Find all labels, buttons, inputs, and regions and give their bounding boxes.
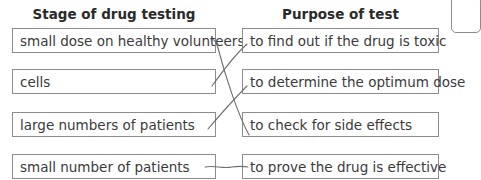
- stage-box-cells[interactable]: cells: [12, 69, 216, 94]
- purpose-label: to determine the optimum dose: [250, 74, 465, 90]
- column-heading-purpose: Purpose of test: [242, 6, 439, 22]
- stage-box-small-dose-healthy-volunteers[interactable]: small dose on healthy volunteers: [12, 28, 216, 53]
- stage-label: small number of patients: [20, 159, 190, 175]
- purpose-box-side-effects[interactable]: to check for side effects: [242, 112, 439, 137]
- purpose-box-toxic[interactable]: to find out if the drug is toxic: [242, 28, 439, 53]
- stage-box-small-number-patients[interactable]: small number of patients: [12, 154, 216, 179]
- stage-label: cells: [20, 74, 50, 90]
- stage-label: large numbers of patients: [20, 117, 195, 133]
- purpose-label: to check for side effects: [250, 117, 412, 133]
- column-heading-stage: Stage of drug testing: [12, 6, 216, 22]
- stage-label: small dose on healthy volunteers: [20, 33, 244, 49]
- purpose-box-effective[interactable]: to prove the drug is effective: [242, 154, 439, 179]
- purpose-label: to find out if the drug is toxic: [250, 33, 446, 49]
- stage-box-large-numbers-patients[interactable]: large numbers of patients: [12, 112, 216, 137]
- purpose-box-optimum-dose[interactable]: to determine the optimum dose: [242, 69, 439, 94]
- purpose-label: to prove the drug is effective: [250, 159, 446, 175]
- partial-side-panel: [451, 0, 481, 33]
